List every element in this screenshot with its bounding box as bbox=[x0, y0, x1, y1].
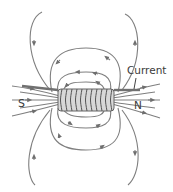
solenoid-field-diagram bbox=[0, 0, 173, 192]
field-line-mid-top bbox=[50, 48, 120, 92]
current-label: Current bbox=[127, 65, 166, 76]
south-pole-label: S bbox=[18, 98, 25, 109]
current-pointer-line bbox=[134, 78, 136, 89]
north-pole-label: N bbox=[134, 100, 142, 111]
solenoid-coil bbox=[58, 89, 114, 111]
field-line-outer-top-left bbox=[30, 12, 50, 90]
field-line-mid-bottom bbox=[50, 108, 120, 150]
field-line-outer-bottom-left bbox=[29, 110, 50, 185]
field-line-outer-bottom-right bbox=[122, 110, 138, 185]
